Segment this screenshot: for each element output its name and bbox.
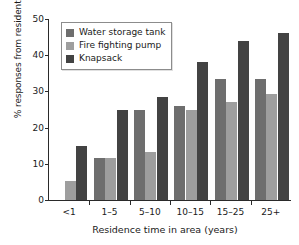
legend-label: Knapsack [79, 54, 122, 63]
y-tick-label: 40 [22, 51, 44, 60]
x-tick-mark [210, 201, 211, 205]
bar [215, 79, 226, 200]
bar [226, 102, 237, 200]
bar [65, 181, 76, 200]
x-tick-label: 10–15 [168, 207, 212, 217]
bar [255, 79, 266, 200]
y-tick-label: 10 [22, 160, 44, 169]
bar [117, 110, 128, 201]
legend-swatch-fire-fighting-pump [66, 42, 74, 50]
y-tick-mark [45, 128, 49, 129]
bar [266, 94, 277, 200]
x-axis-title: Residence time in area (years) [40, 224, 290, 235]
bar [238, 41, 249, 200]
bar-group [255, 19, 289, 200]
legend-label: Water storage tank [79, 28, 165, 37]
bar [186, 110, 197, 201]
bar-group [174, 19, 208, 200]
bar [174, 106, 185, 200]
x-tick-label: 15–25 [209, 207, 253, 217]
bar-chart-figure: % responses from residents 01020304050 <… [0, 0, 299, 245]
y-tick-mark [45, 200, 49, 201]
legend-entry: Knapsack [66, 52, 165, 65]
x-tick-mark [130, 201, 131, 205]
bar [94, 158, 105, 200]
y-tick-mark [45, 55, 49, 56]
legend-swatch-knapsack [66, 55, 74, 63]
legend-label: Fire fighting pump [79, 41, 161, 50]
bar [197, 62, 208, 200]
x-tick-mark [89, 201, 90, 205]
y-tick-label: 20 [22, 124, 44, 133]
y-tick-label: 0 [22, 196, 44, 205]
bar [105, 158, 116, 200]
legend-swatch-water-storage-tank [66, 29, 74, 37]
bar-group [215, 19, 249, 200]
y-tick-mark [45, 19, 49, 20]
y-tick-label: 50 [22, 15, 44, 24]
x-tick-mark [170, 201, 171, 205]
x-tick-label: <1 [47, 207, 91, 217]
y-tick-mark [45, 164, 49, 165]
x-tick-label: 25+ [249, 207, 293, 217]
chart-legend: Water storage tank Fire fighting pump Kn… [61, 22, 172, 70]
y-axis-tick-labels: 01020304050 [22, 0, 44, 245]
x-tick-label: 5–10 [128, 207, 172, 217]
bar [157, 97, 168, 200]
legend-entry: Fire fighting pump [66, 39, 165, 52]
y-tick-mark [45, 91, 49, 92]
bar [76, 146, 87, 200]
bar [145, 152, 156, 200]
x-tick-mark [251, 201, 252, 205]
x-tick-label: 1–5 [88, 207, 132, 217]
bar [278, 33, 289, 200]
y-tick-label: 30 [22, 87, 44, 96]
bar [134, 110, 145, 201]
legend-entry: Water storage tank [66, 26, 165, 39]
